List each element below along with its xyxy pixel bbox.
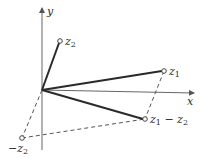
vector-z1-minus-z2	[42, 90, 143, 119]
vector-diagram	[0, 0, 208, 158]
dashed-line-origin-neg-z2	[22, 90, 42, 138]
x-axis	[42, 90, 194, 93]
y-axis-label: y	[47, 6, 53, 17]
vector-z2	[42, 43, 59, 90]
label-z1-minus-z2: z1 − z2	[150, 114, 188, 127]
label-z1: z1	[169, 66, 180, 79]
point-z1-minus-z2	[143, 117, 148, 122]
dashed-line-z1-diff	[145, 71, 164, 119]
vector-z1	[42, 71, 162, 90]
label-neg-z2: −z2	[8, 143, 28, 156]
label-z2: z2	[65, 36, 76, 49]
x-axis-label: x	[187, 96, 193, 107]
dashed-line-neg-z2-diff	[22, 119, 145, 138]
point-z2	[58, 39, 63, 44]
point-z1	[162, 69, 167, 74]
point-neg-z2	[20, 136, 25, 141]
